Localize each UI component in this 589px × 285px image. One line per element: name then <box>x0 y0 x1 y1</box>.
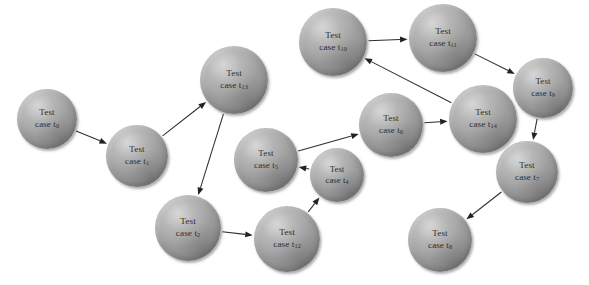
edge-arrowhead-icon <box>299 166 307 172</box>
edge-arrowhead-icon <box>532 132 538 140</box>
node-label-base: case t <box>379 125 400 135</box>
node-label-base: case t <box>428 240 449 250</box>
node-label-line1: Test <box>432 228 447 240</box>
node-label-line1: Test <box>279 227 295 239</box>
node-label-line2: case t5 <box>254 160 278 172</box>
node-label-line2: case t2 <box>176 228 200 240</box>
node-label-line1: Test <box>535 76 550 87</box>
node-label-subscript: 13 <box>242 83 248 90</box>
edge-line <box>472 192 501 215</box>
node-label-line1: Test <box>519 160 534 172</box>
node-label-line2: case t1 <box>125 156 149 168</box>
graph-node-t7[interactable]: Testcase t7 <box>496 141 558 203</box>
graph-node-t9[interactable]: Testcase t9 <box>513 58 573 118</box>
edge-arrowhead-icon <box>351 133 359 139</box>
edge-arrowhead-icon <box>245 231 253 237</box>
node-label-subscript: 14 <box>491 122 497 129</box>
graph-node-t1[interactable]: Testcase t1 <box>106 125 168 187</box>
edge-arrowhead-icon <box>466 212 474 219</box>
edge-line <box>200 114 223 188</box>
graph-edge-t6-to-t14 <box>424 119 447 125</box>
node-label-base: case t <box>515 172 536 182</box>
node-label-base: case t <box>429 38 450 48</box>
node-label-subscript: 9 <box>552 92 555 98</box>
graph-node-t10[interactable]: Testcase t10 <box>299 8 367 76</box>
edge-arrowhead-icon <box>365 58 373 64</box>
node-label-line2: case t7 <box>515 172 539 184</box>
edge-line <box>222 232 245 235</box>
graph-node-t6[interactable]: Testcase t6 <box>359 93 423 157</box>
node-label-subscript: 4 <box>346 179 349 185</box>
node-label-line1: Test <box>330 164 345 175</box>
node-label-line1: Test <box>325 30 341 42</box>
diagram-canvas: Testcase t0Testcase t1Testcase t13Testca… <box>0 0 589 285</box>
node-label-subscript: 5 <box>275 164 278 170</box>
node-label-base: case t <box>254 160 275 170</box>
edge-line <box>368 40 400 41</box>
node-label-line2: case t11 <box>429 38 456 50</box>
node-label-line1: Test <box>129 144 144 156</box>
edge-arrowhead-icon <box>400 37 408 43</box>
graph-edge-t2-to-t12 <box>222 231 252 237</box>
edge-arrowhead-icon <box>99 138 107 144</box>
node-label-subscript: 2 <box>197 231 200 238</box>
graph-node-t14[interactable]: Testcase t14 <box>449 85 517 153</box>
node-label-line2: case t6 <box>379 125 403 137</box>
node-label-line1: Test <box>383 113 398 125</box>
graph-node-t11[interactable]: Testcase t11 <box>409 4 477 72</box>
edge-line <box>308 203 315 211</box>
node-label-line2: case t8 <box>428 240 452 252</box>
graph-node-t4[interactable]: Testcase t4 <box>310 148 364 202</box>
edge-line <box>76 131 100 141</box>
edge-arrowhead-icon <box>440 119 448 125</box>
edge-line <box>424 122 440 123</box>
node-label-base: case t <box>273 239 294 249</box>
edge-arrowhead-icon <box>198 102 206 109</box>
edge-line <box>163 107 201 136</box>
graph-edge-t1-to-t13 <box>163 102 206 136</box>
graph-edge-t9-to-t7 <box>532 119 538 140</box>
node-label-subscript: 7 <box>536 176 539 182</box>
node-label-base: case t <box>469 119 490 129</box>
node-label-line2: case t10 <box>319 42 347 54</box>
node-label-line1: Test <box>475 107 491 119</box>
edge-arrowhead-icon <box>312 197 319 205</box>
node-label-subscript: 6 <box>400 129 403 135</box>
node-label-subscript: 11 <box>451 41 457 48</box>
graph-edge-t10-to-t11 <box>368 37 407 43</box>
edge-arrowhead-icon <box>507 68 515 74</box>
graph-edge-t11-to-t9 <box>475 54 515 74</box>
graph-node-t0[interactable]: Testcase t0 <box>17 89 77 149</box>
node-label-base: case t <box>125 156 146 166</box>
node-label-line2: case t4 <box>325 175 348 187</box>
graph-node-t5[interactable]: Testcase t5 <box>234 128 298 192</box>
graph-node-t12[interactable]: Testcase t12 <box>254 206 320 272</box>
graph-edge-t13-to-t2 <box>198 114 224 195</box>
graph-edge-t12-to-t4 <box>308 197 319 211</box>
graph-node-t8[interactable]: Testcase t8 <box>408 208 472 272</box>
graph-node-t13[interactable]: Testcase t13 <box>200 46 268 114</box>
graph-node-t2[interactable]: Testcase t2 <box>155 195 221 261</box>
graph-edge-t7-to-t8 <box>466 192 501 219</box>
node-label-base: case t <box>531 88 552 98</box>
edge-line <box>306 168 309 169</box>
node-label-line1: Test <box>180 216 196 228</box>
node-label-line1: Test <box>39 107 54 119</box>
node-label-line2: case t13 <box>220 80 248 92</box>
node-label-line1: Test <box>226 68 242 80</box>
node-label-subscript: 10 <box>341 45 347 52</box>
graph-edge-t4-to-t5 <box>299 166 309 172</box>
graph-edge-t0-to-t1 <box>76 131 107 144</box>
node-label-subscript: 1 <box>146 160 149 166</box>
node-label-line2: case t14 <box>469 119 497 131</box>
node-label-line2: case t9 <box>531 88 555 100</box>
node-label-base: case t <box>35 119 56 129</box>
node-label-subscript: 12 <box>295 242 301 249</box>
edge-line <box>534 119 537 133</box>
node-label-subscript: 8 <box>449 244 452 250</box>
node-label-line1: Test <box>435 26 451 38</box>
node-label-line2: case t0 <box>35 119 59 131</box>
node-label-base: case t <box>176 228 197 238</box>
edge-arrowhead-icon <box>198 187 204 195</box>
node-label-base: case t <box>325 175 345 185</box>
